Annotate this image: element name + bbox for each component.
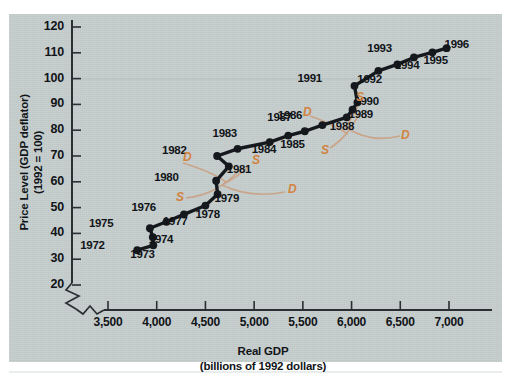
data-point-label-1992: 1992	[357, 73, 381, 85]
data-point-label-1981: 1981	[227, 163, 251, 175]
data-point-label-1980: 1980	[154, 171, 178, 183]
y-tick-label-100: 100	[30, 71, 64, 85]
supply-curve-1991-letter: S	[356, 90, 364, 104]
x-tick-marks	[108, 301, 449, 310]
data-point-1986	[301, 127, 309, 135]
y-tick-label-80: 80	[30, 122, 64, 136]
data-point-label-1987: 1987	[267, 111, 291, 123]
x-axis-title: Real GDP (billions of 1992 dollars)	[148, 344, 378, 373]
demand-curve-1981-letter: D	[288, 182, 297, 196]
y-tick-label-50: 50	[30, 200, 64, 214]
demand-curve-1991-letter: D	[401, 128, 410, 142]
x-axis-title-sub: (billions of 1992 dollars)	[200, 360, 326, 372]
y-tick-label-60: 60	[30, 174, 64, 188]
data-point-label-1994: 1994	[395, 59, 419, 71]
demand-curve-1980-letter: D	[183, 150, 192, 164]
data-point-label-1996: 1996	[445, 38, 469, 50]
y-tick-label-90: 90	[30, 96, 64, 110]
data-point-label-1978: 1978	[195, 208, 219, 220]
data-point-label-1973: 1973	[130, 248, 154, 260]
x-tick-label-5,500: 5,500	[277, 315, 329, 329]
data-point-label-1974: 1974	[149, 233, 173, 245]
data-point-label-1979: 1979	[215, 192, 239, 204]
y-tick-label-30: 30	[30, 251, 64, 265]
y-axis-break-icon	[66, 283, 79, 309]
supply-curve-1981-letter: S	[252, 153, 260, 167]
data-point-label-1983: 1983	[213, 127, 237, 139]
y-tick-label-110: 110	[30, 45, 64, 59]
data-point-label-1976: 1976	[131, 201, 155, 213]
data-point-label-1989: 1989	[349, 108, 373, 120]
x-tick-label-4,000: 4,000	[131, 315, 183, 329]
data-point-label-1993: 1993	[367, 42, 391, 54]
demand-curve-1988-letter: D	[303, 105, 312, 119]
data-point-label-1972: 1972	[80, 239, 104, 251]
x-tick-label-4,500: 4,500	[179, 315, 231, 329]
y-tick-label-20: 20	[30, 277, 64, 291]
data-point-1980	[212, 177, 220, 185]
data-point-1983	[234, 145, 242, 153]
supply-curve-1980-letter: S	[176, 190, 184, 204]
data-point-label-1995: 1995	[423, 54, 447, 66]
x-axis-title-main: Real GDP	[238, 345, 289, 357]
y-tick-label-70: 70	[30, 148, 64, 162]
supply-curve-1988-letter: S	[321, 143, 329, 157]
y-tick-label-120: 120	[30, 19, 64, 33]
data-point-1975	[146, 224, 154, 232]
y-axis-title-main: Price Level (GDP deflator)	[18, 94, 30, 230]
data-point-1987	[318, 121, 326, 129]
x-tick-label-3,500: 3,500	[82, 315, 134, 329]
data-point-label-1977: 1977	[163, 215, 187, 227]
y-tick-label-40: 40	[30, 225, 64, 239]
figure-canvas: Price Level (GDP deflator) (1992 = 100) …	[0, 0, 509, 378]
x-tick-label-6,500: 6,500	[374, 315, 426, 329]
x-tick-label-6,000: 6,000	[326, 315, 378, 329]
axis-corner-break-icon	[76, 306, 104, 314]
data-point-label-1985: 1985	[280, 138, 304, 150]
data-point-1982	[213, 152, 221, 160]
data-point-label-1988: 1988	[330, 120, 354, 132]
data-point-label-1991: 1991	[297, 72, 321, 84]
x-tick-label-7,000: 7,000	[423, 315, 475, 329]
x-tick-label-5,000: 5,000	[228, 315, 280, 329]
data-point-label-1975: 1975	[89, 217, 113, 229]
